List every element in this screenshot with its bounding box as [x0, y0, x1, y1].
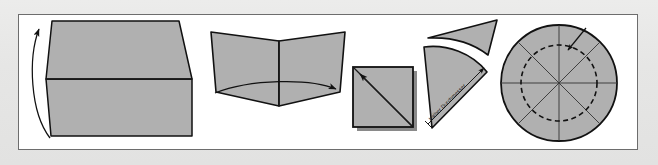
- folding-instruction-figure: halber Durchmesser: [0, 0, 658, 165]
- panel-2-fold-half-into-quarter: [211, 32, 345, 106]
- panel-2-left-wing: [211, 32, 279, 106]
- panel-1-lower-face: [46, 79, 192, 136]
- panel-1-fold-sheet-in-half: [32, 21, 192, 138]
- panel-4-quarter-cone-with-radius: halber Durchmesser: [424, 20, 497, 128]
- panel-2-right-wing: [279, 32, 345, 106]
- figure-drawing-canvas: halber Durchmesser: [0, 0, 658, 165]
- panel-5-unfolded-circle-with-fold-lines: [501, 25, 617, 141]
- panel-3-folded-square-with-diagonals: [353, 67, 417, 131]
- panel-1-upper-face: [46, 21, 192, 79]
